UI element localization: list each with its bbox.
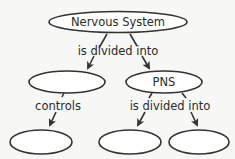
node-label: PNS [153,75,176,89]
node-nervous-system: Nervous System [49,12,187,33]
edge-pns-to-child-1 [149,93,152,98]
node-pns: PNS [126,71,202,93]
node-left-empty [29,71,105,93]
edge-pns-to-child-2-arrow [191,112,197,125]
link-label-pns-split: is divided into [130,99,211,113]
node-left-child-empty [10,130,72,154]
node-label: Nervous System [71,15,165,29]
link-label-controls: controls [35,99,81,113]
node-pns-child-2-empty [169,130,229,154]
concept-map: Nervous System is divided into PNS contr… [0,0,235,159]
edge-left-to-child-arrow [50,112,56,125]
link-label-root-split: is divided into [78,44,159,58]
edge-pns-to-child-1-arrow [138,112,145,125]
node-pns-child-1-empty [99,130,161,154]
edge-pns-to-child-2 [182,93,186,98]
